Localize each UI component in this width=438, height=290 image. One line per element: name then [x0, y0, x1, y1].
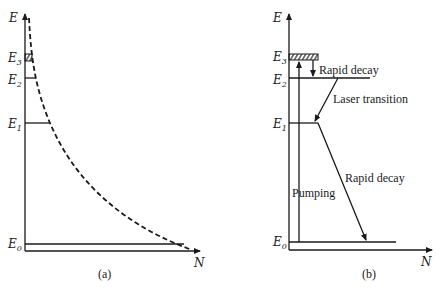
panel-b-rapid-decay-label-top: Rapid decay: [319, 63, 379, 77]
panel-a: E N E3 E2 E1 E0 (a): [7, 11, 205, 281]
panel-a-label-e0: E0: [7, 237, 22, 253]
panel-b-level-e3-band: [289, 54, 318, 60]
panel-b-label-e3: E3: [272, 50, 287, 66]
panel-a-y-axis-label: E: [8, 11, 18, 25]
panel-b: E N E3 E2 E1 E0 Rapid decay Laser transi…: [272, 11, 432, 281]
panel-b-laser-transition-label: Laser transition: [333, 92, 408, 106]
panel-a-label-e2: E2: [7, 73, 22, 89]
panel-a-caption: (a): [98, 267, 111, 281]
panel-a-x-axis-label: N: [193, 256, 205, 270]
panel-b-caption: (b): [362, 267, 376, 281]
panel-a-population-curve: [29, 18, 192, 250]
panel-a-label-e1: E1: [7, 117, 22, 133]
panel-b-label-e1: E1: [272, 117, 287, 133]
panel-b-label-e2: E2: [272, 73, 287, 89]
panel-b-x-axis-label: N: [420, 255, 432, 269]
energy-level-diagram: E N E3 E2 E1 E0 (a) E N E3: [0, 0, 438, 290]
panel-a-level-e3-band: [25, 54, 32, 61]
panel-b-label-e0: E0: [272, 235, 287, 251]
panel-b-y-axis-label: E: [272, 11, 282, 25]
panel-b-pumping-label: Pumping: [292, 186, 335, 200]
panel-a-label-e3: E3: [7, 51, 22, 67]
panel-b-rapid-decay-label-bottom: Rapid decay: [345, 171, 405, 185]
